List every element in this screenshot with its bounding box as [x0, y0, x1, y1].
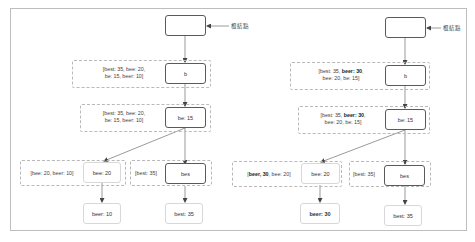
right-node-bes: bes: [384, 165, 425, 186]
left-node-bee: bee: 20: [83, 162, 121, 183]
right-annotation-be: [best: 35, beer: 30, bee: 20, be: 15]: [320, 112, 365, 126]
right-root-node: [385, 17, 426, 38]
left-node-beer: beer: 10: [83, 203, 121, 224]
right-node-best: best: 35: [384, 205, 422, 226]
left-root-node: [165, 15, 206, 36]
left-annotation-bee: [bee: 20, beer: 10]: [31, 170, 74, 177]
right-node-b: b: [385, 65, 426, 86]
right-annotation-bes: [best: 35]: [353, 171, 375, 178]
right-root-label: 根結點: [443, 24, 461, 32]
left-node-b: b: [165, 63, 206, 84]
left-node-be: be: 15: [165, 107, 206, 128]
left-root-label: 根結點: [231, 22, 249, 30]
right-node-be: be: 15: [385, 109, 426, 130]
right-annotation-b: [best: 35, beer: 30, bee: 20, be: 15]: [318, 68, 363, 82]
left-node-bes: bes: [165, 163, 206, 184]
right-annotation-bee: [beer, 30, bee: 20]: [247, 171, 290, 178]
left-annotation-bes: [best: 35]: [135, 170, 157, 177]
right-node-bee: bee: 20: [301, 163, 340, 184]
left-annotation-be: [best: 35, bee: 20, be: 15, beer: 10]: [103, 110, 145, 124]
left-annotation-b: [best: 35, bee: 20, be: 15, beer: 10]: [103, 66, 145, 80]
right-node-beer: beer: 30: [300, 203, 340, 224]
left-node-best: best: 35: [165, 203, 203, 224]
